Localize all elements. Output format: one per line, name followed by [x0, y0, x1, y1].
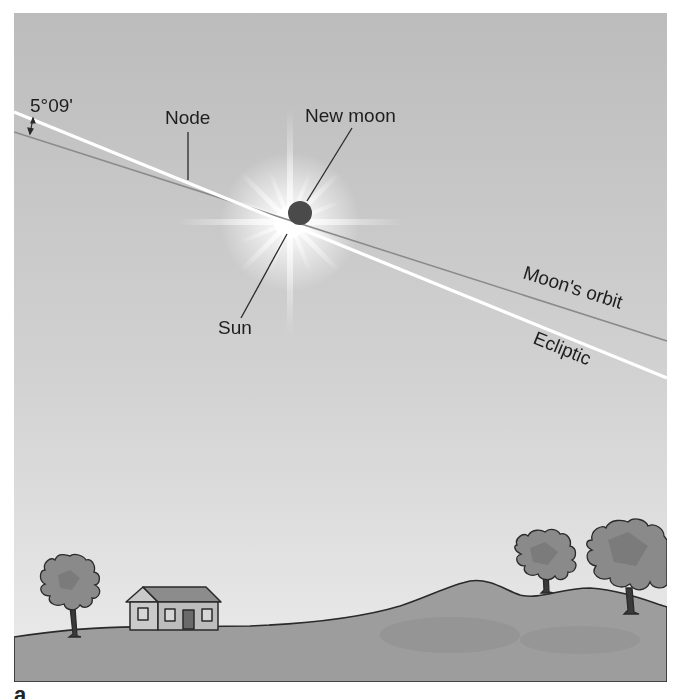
new-moon-label: New moon — [305, 105, 396, 126]
sun-label: Sun — [218, 317, 252, 338]
new-moon-icon — [288, 201, 312, 225]
eclipse-diagram: 5°09' Node New moon Sun Moon's orbit Ecl… — [0, 0, 690, 699]
house — [126, 587, 221, 630]
figure-letter: a — [14, 684, 26, 699]
inclination-label: 5°09' — [30, 95, 73, 116]
node-label: Node — [165, 107, 210, 128]
